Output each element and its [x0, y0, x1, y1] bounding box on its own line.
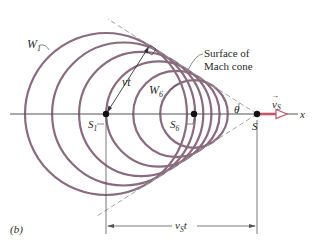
- s6-leader-line: [187, 118, 194, 124]
- label-theta: θ: [234, 103, 240, 115]
- vt-radius-arrow: [107, 45, 156, 113]
- velocity-vector: [258, 110, 287, 119]
- label-surface-line1: Surface of: [204, 47, 250, 59]
- w6-leader-line: [171, 84, 178, 89]
- panel-label: (b): [10, 223, 23, 236]
- label-s: S: [252, 120, 258, 132]
- label-w1: W1: [27, 37, 41, 53]
- source-dot-s6: [191, 111, 197, 117]
- source-dot-s1: [103, 111, 109, 117]
- label-x-axis: x: [299, 108, 305, 120]
- label-vst: vSt: [175, 219, 188, 234]
- label-surface-line2: Mach cone: [204, 60, 253, 72]
- mach-cone-figure: W1 vt W6 Surface of Mach cone S1 S6 S θ …: [0, 0, 318, 241]
- label-vt: vt: [122, 75, 131, 89]
- source-dot-s: [254, 111, 260, 117]
- label-vs: vS: [272, 98, 281, 112]
- diagram-canvas: W1 vt W6 Surface of Mach cone S1 S6 S θ …: [0, 0, 318, 241]
- label-s6: S6: [170, 118, 180, 133]
- surface-leader-line: [188, 54, 203, 70]
- w1-leader-line: [40, 45, 49, 50]
- label-w6: W6: [149, 83, 163, 99]
- label-s1: S1: [88, 118, 97, 133]
